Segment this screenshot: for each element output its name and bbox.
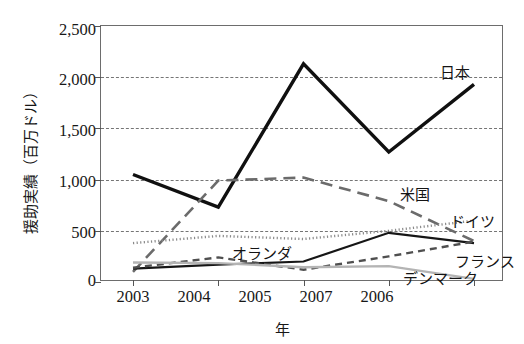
series-label-ドイツ: ドイツ (450, 215, 495, 230)
y-tick-label: 0 (42, 273, 96, 289)
series-label-フランス: フランス (455, 255, 515, 270)
y-tick-label: 1,000 (42, 174, 96, 190)
y-axis-tick-labels: 2,500 2,000 1,500 1,000 500 0 (34, 0, 96, 344)
x-axis-title-text: 年 (235, 322, 290, 338)
series-label-デンマーク: デンマーク (403, 272, 478, 287)
series-label-オランダ: オランダ (232, 247, 292, 262)
series-label-日本: 日本 (440, 66, 470, 81)
y-tick-label: 1,500 (42, 123, 96, 139)
x-tick-label: 2006 (342, 287, 412, 307)
x-tick-label: 2007 (281, 287, 351, 307)
series-label-米国: 米国 (400, 188, 430, 203)
x-axis-title: 年 (0, 318, 524, 339)
y-tick-label: 500 (42, 225, 96, 241)
series-line-ドイツ (133, 221, 474, 244)
x-tick-label: 2005 (220, 287, 290, 307)
line-chart: 援助実績（百万ドル） 2,500 2,000 1,500 1,000 500 0… (0, 0, 524, 344)
x-tick-label: 2004 (159, 287, 229, 307)
x-tick-label: 2003 (98, 287, 168, 307)
y-tick-label: 2,000 (42, 72, 96, 88)
plot-area (100, 25, 503, 281)
series-line-日本 (133, 64, 474, 207)
y-tick-label: 2,500 (42, 22, 96, 38)
y-tick-mark (95, 282, 101, 283)
